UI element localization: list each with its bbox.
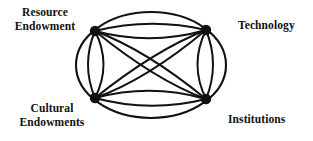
node-institutions[interactable] [201, 94, 211, 104]
link-technology-institutions [198, 30, 214, 99]
link-resource-endowment-institutions [95, 31, 206, 99]
label-institutions: Institutions [228, 113, 308, 127]
label-resource-endowment: Resource Endowment [8, 6, 82, 33]
label-cultural-endowments: Cultural Endowments [10, 102, 94, 129]
link-resource-endowment-cultural-endowments [88, 31, 104, 98]
diagram-canvas: Resource Endowment Technology Cultural E… [0, 0, 313, 141]
label-technology: Technology [238, 19, 308, 33]
node-technology[interactable] [201, 25, 211, 35]
link-technology-cultural-endowments [95, 30, 206, 98]
node-resource-endowment[interactable] [90, 26, 100, 36]
